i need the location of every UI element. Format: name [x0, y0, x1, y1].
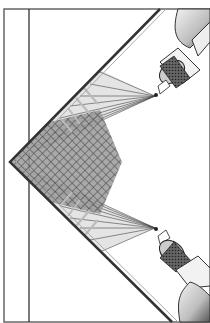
illustration: Two spray guns spraying paint into an in… [0, 0, 210, 323]
upper-spray-gun [154, 9, 210, 97]
lower-spray-gun [154, 227, 210, 322]
